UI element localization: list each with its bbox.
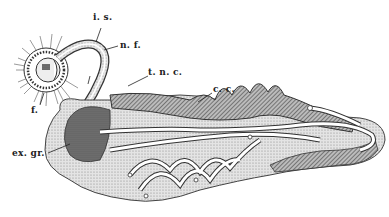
label-f: f. (31, 105, 38, 115)
funnel-rosette (14, 34, 78, 106)
label-is: i. s. (93, 12, 112, 22)
label-cc: c. c. (213, 84, 235, 94)
anatomical-diagram: i. s. n. f. t. n. c. c. c. f. ex. gr. (0, 0, 389, 217)
diagram-drawing (0, 0, 389, 217)
label-exgr: ex. gr. (12, 148, 45, 158)
nephridium-body (45, 84, 385, 202)
label-nf: n. f. (120, 40, 141, 50)
label-tnc: t. n. c. (148, 67, 182, 77)
